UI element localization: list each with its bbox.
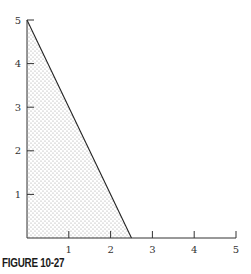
x-tick-label: 5 [233,244,239,255]
chart-canvas: 12345 12345 [0,0,251,274]
x-tick-label: 1 [66,244,72,255]
x-tick-label: 2 [107,244,113,255]
y-tick-label: 5 [15,15,21,26]
x-tick-label: 3 [149,244,155,255]
y-tick-label: 3 [15,102,21,113]
y-tick-label: 4 [15,58,21,69]
y-tick-label: 2 [15,145,21,156]
x-tick-label: 4 [191,244,197,255]
figure-caption: FIGURE 10-27 [2,256,64,270]
y-tick-label: 1 [15,189,21,200]
